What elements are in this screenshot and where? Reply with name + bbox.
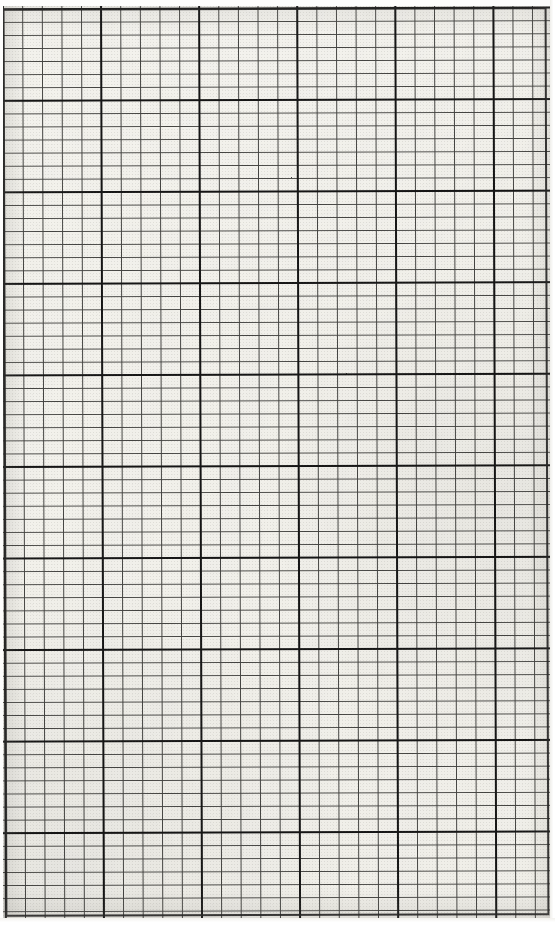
paper-sheet	[3, 6, 550, 918]
page-margin-bottom	[0, 918, 555, 925]
graph-paper-scan	[0, 0, 555, 925]
grid-border	[3, 7, 549, 917]
page-margin-right	[550, 0, 555, 925]
grid-tilt-wrapper	[3, 6, 550, 918]
minor-gridlines	[3, 6, 550, 918]
major-gridlines	[3, 6, 550, 918]
